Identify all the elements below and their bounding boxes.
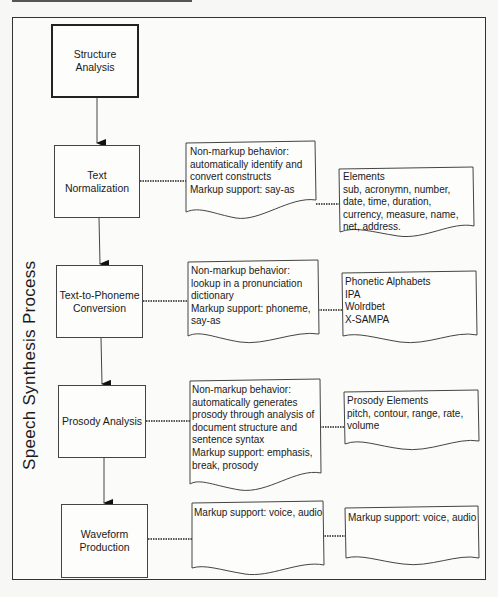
behavior-note-waveform: Markup support: voice, audio (194, 507, 322, 520)
behavior-note-phoneme: Non-markup behavior: lookup in a pronunc… (191, 265, 311, 328)
note-line: lookup in a pronunciation (191, 278, 311, 291)
note-line: Markup support: voice, audio (348, 512, 476, 525)
step-label: Prosody Analysis (62, 415, 142, 428)
note-line: net, address. (343, 221, 458, 234)
note-line: Prosody Elements (347, 395, 463, 408)
note-line: Phonetic Alphabets (345, 276, 431, 289)
element-note-waveform: Markup support: voice, audio (348, 512, 476, 525)
note-line: sub, acronymn, number, (343, 184, 458, 197)
step-label: Waveform (79, 528, 129, 541)
step-label: Normalization (65, 182, 129, 195)
arrow-normalization-to-phoneme (99, 218, 100, 264)
element-note-normalization: Elements sub, acronymn, number, date, ti… (343, 171, 458, 234)
note-line: date, time, duration, (343, 196, 458, 209)
note-line: volume (347, 420, 463, 433)
note-line: Markup support: voice, audio (194, 507, 322, 520)
note-line: Non-markup behavior: (190, 146, 302, 159)
element-note-phoneme: Phonetic Alphabets IPA Wolrdbet X-SAMPA (345, 276, 431, 326)
note-line: sentence syntax (192, 434, 314, 447)
step-text-to-phoneme: Text-to-PhonemeConversion (56, 265, 143, 338)
note-line: say-as (191, 315, 311, 328)
step-label: Analysis (74, 61, 117, 74)
note-line: pitch, contour, range, rate, (347, 408, 463, 421)
step-prosody-analysis: Prosody Analysis (58, 385, 146, 458)
note-line: currency, measure, name, (343, 209, 458, 222)
step-label: Structure (74, 48, 117, 61)
note-line: convert constructs (190, 171, 302, 184)
note-line: automatically identify and (190, 159, 302, 172)
step-waveform-production: WaveformProduction (61, 504, 148, 578)
note-line: Markup support: emphasis, (192, 447, 314, 460)
step-structure-analysis: StructureAnalysis (51, 24, 139, 98)
behavior-note-normalization: Non-markup behavior: automatically ident… (190, 146, 302, 196)
note-line: Markup support: say-as (190, 184, 302, 197)
note-line: IPA (345, 289, 431, 302)
diagram-title: Speech Synthesis Process (20, 261, 40, 470)
note-line: document structure and (192, 422, 314, 435)
note-line: Non-markup behavior: (191, 265, 311, 278)
step-label: Text (65, 169, 129, 182)
step-label: Conversion (60, 302, 140, 315)
note-line: break, prosody (192, 460, 314, 473)
note-line: dictionary (191, 290, 311, 303)
note-line: Elements (343, 171, 458, 184)
note-line: prosody through analysis of (192, 409, 314, 422)
step-label: Text-to-Phoneme (60, 289, 140, 302)
note-line: X-SAMPA (345, 314, 431, 327)
note-line: Non-markup behavior: (192, 384, 314, 397)
step-label: Production (79, 541, 129, 554)
behavior-note-prosody: Non-markup behavior: automatically gener… (192, 384, 314, 472)
note-line: Wolrdbet (345, 301, 431, 314)
step-text-normalization: TextNormalization (54, 145, 140, 218)
arrow-phoneme-to-prosody (101, 338, 102, 384)
note-line: automatically generates (192, 397, 314, 410)
note-line: Markup support: phoneme, (191, 303, 311, 316)
element-note-prosody: Prosody Elements pitch, contour, range, … (347, 395, 463, 433)
